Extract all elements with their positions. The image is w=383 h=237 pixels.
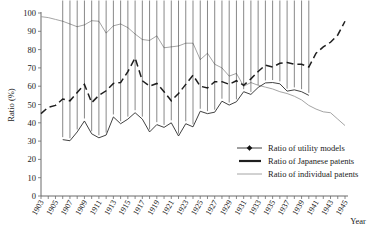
- x-tick-label: 1909: [73, 199, 89, 217]
- y-axis-group: 0102030405060708090100: [23, 8, 41, 201]
- x-tick-label: 1919: [146, 199, 162, 217]
- series-group: [41, 1, 345, 141]
- x-tick-label: 1923: [175, 199, 191, 217]
- x-axis-tick-labels: 1903190519071909191119131915191719191921…: [30, 199, 350, 217]
- x-tick-label: 1913: [102, 199, 118, 217]
- y-axis-title: Ratio (%): [6, 88, 16, 121]
- x-tick-label: 1917: [131, 199, 147, 217]
- x-tick-label: 1905: [44, 199, 60, 217]
- y-tick-label: 100: [23, 8, 36, 18]
- x-tick-label: 1911: [88, 199, 104, 217]
- x-tick-label: 1927: [204, 199, 220, 217]
- x-tick-label: 1925: [189, 199, 205, 217]
- y-tick-label: 30: [28, 136, 37, 146]
- y-tick-label: 50: [28, 100, 37, 110]
- x-tick-label: 1933: [247, 199, 263, 217]
- x-tick-label: 1945: [334, 199, 350, 217]
- x-axis-group: 1903190519071909191119131915191719191921…: [30, 196, 350, 217]
- x-tick-label: 1929: [218, 199, 234, 217]
- legend-label-individual-patents: Ratio of individual patents: [268, 169, 358, 179]
- x-tick-label: 1935: [262, 199, 278, 217]
- series-markers-utility-models: [63, 1, 309, 139]
- y-tick-label: 10: [28, 173, 37, 183]
- y-axis-tick-labels: 0102030405060708090100: [23, 8, 36, 201]
- legend-label-japanese-patents: Ratio of Japanese patents: [268, 156, 354, 166]
- legend-marker-utility-models: [247, 145, 252, 150]
- x-tick-label: 1907: [59, 199, 75, 217]
- x-tick-label: 1939: [291, 199, 307, 217]
- x-tick-label: 1921: [160, 199, 176, 217]
- line-chart: 0102030405060708090100 19031905190719091…: [0, 0, 383, 237]
- y-tick-label: 90: [28, 26, 37, 36]
- y-tick-label: 0: [32, 191, 36, 201]
- x-tick-label: 1903: [30, 199, 46, 217]
- y-tick-label: 70: [28, 63, 37, 73]
- y-tick-label: 20: [28, 154, 37, 164]
- x-tick-label: 1941: [305, 199, 321, 217]
- y-tick-label: 60: [28, 81, 37, 91]
- chart-container: 0102030405060708090100 19031905190719091…: [0, 0, 383, 237]
- x-tick-label: 1937: [276, 199, 292, 217]
- x-axis-title: Year: [350, 216, 366, 226]
- x-tick-label: 1943: [319, 199, 335, 217]
- x-tick-label: 1915: [117, 199, 133, 217]
- legend-label-utility-models: Ratio of utility models: [268, 143, 345, 153]
- chart-legend: Ratio of utility models Ratio of Japanes…: [237, 143, 358, 179]
- x-tick-label: 1931: [233, 199, 249, 217]
- y-tick-label: 80: [28, 45, 37, 55]
- y-tick-label: 40: [28, 118, 37, 128]
